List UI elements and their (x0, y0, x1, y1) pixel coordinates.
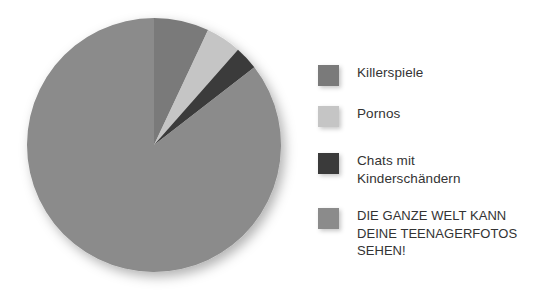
legend-item-chats[interactable]: Chats mit Kinderschändern (318, 152, 461, 187)
legend-item-pornos[interactable]: Pornos (318, 105, 400, 127)
legend-item-teenagerfotos[interactable]: DIE GANZE WELT KANN DEINE TEENAGERFOTOS … (318, 207, 517, 260)
legend-label-pornos: Pornos (357, 105, 400, 123)
pie-chart-area (0, 0, 310, 292)
legend-swatch-teenagerfotos (318, 208, 339, 229)
legend-label-killerspiele: Killerspiele (357, 64, 423, 82)
legend-label-chats: Chats mit Kinderschändern (357, 152, 461, 187)
legend-swatch-killerspiele (318, 65, 339, 86)
pie-slices-group (27, 18, 281, 272)
chart-page: Killerspiele Pornos Chats mit Kinderschä… (0, 0, 552, 292)
legend-item-killerspiele[interactable]: Killerspiele (318, 64, 423, 86)
legend-swatch-pornos (318, 106, 339, 127)
legend-label-teenagerfotos: DIE GANZE WELT KANN DEINE TEENAGERFOTOS … (357, 207, 517, 260)
legend-swatch-chats (318, 153, 339, 174)
pie-chart-svg (0, 0, 310, 292)
